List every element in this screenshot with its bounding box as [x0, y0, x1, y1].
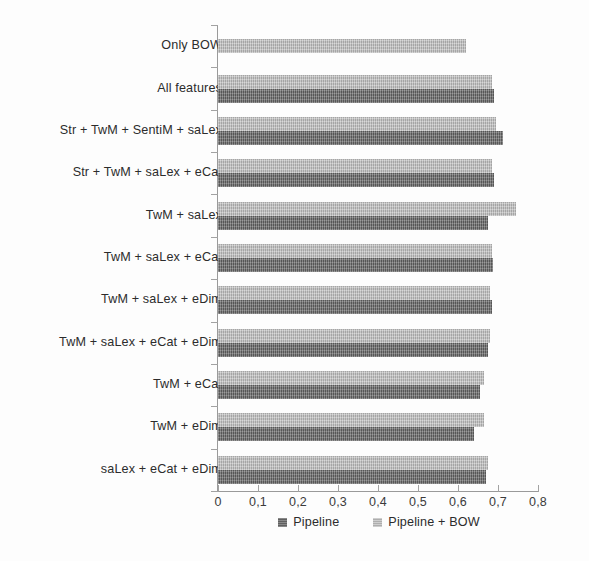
category-label: saLex + eCat + eDim	[101, 462, 222, 476]
bar-pipeline-plus-bow	[218, 39, 466, 53]
bar-pipeline	[218, 343, 488, 357]
bar-row: Only BOW	[0, 25, 589, 67]
bar-pipeline	[218, 385, 480, 399]
value-axis-tick-label: 0,6	[438, 495, 478, 509]
bar-pipeline-plus-bow	[218, 75, 492, 89]
bar-pipeline	[218, 258, 493, 272]
value-axis-tick-label: 0,7	[478, 495, 518, 509]
bar-pipeline-plus-bow	[218, 159, 492, 173]
bar-row: saLex + eCat + eDim	[0, 449, 589, 491]
legend-swatch-icon	[278, 518, 287, 527]
category-label: TwM + saLex	[146, 208, 222, 222]
legend-swatch-icon	[373, 518, 382, 527]
legend-label: Pipeline + BOW	[388, 515, 479, 529]
bar-row: TwM + saLex + eCat + eDim	[0, 322, 589, 364]
legend-entry: Pipeline + BOW	[373, 515, 479, 529]
bar-pipeline-plus-bow	[218, 117, 496, 131]
bar-pipeline	[218, 470, 486, 484]
bar-row: Str + TwM + saLex + eCat	[0, 152, 589, 194]
bar-chart-figure: 00,10,20,30,40,50,60,70,8 Only BOWAll fe…	[0, 0, 589, 561]
chart-legend: PipelinePipeline + BOW	[218, 515, 540, 529]
bar-pipeline-plus-bow	[218, 286, 490, 300]
bar-row: All features	[0, 67, 589, 109]
category-label: Str + TwM + SentiM + saLex	[60, 123, 222, 137]
category-label: TwM + saLex + eDim	[101, 292, 222, 306]
bar-pipeline	[218, 131, 503, 145]
bar-pipeline-plus-bow	[218, 456, 488, 470]
bar-row: TwM + saLex	[0, 194, 589, 236]
value-axis-tick-label: 0,3	[318, 495, 358, 509]
value-axis-tick-label: 0,8	[518, 495, 558, 509]
bar-pipeline-plus-bow	[218, 329, 490, 343]
bar-pipeline	[218, 89, 494, 103]
value-axis-tick-label: 0,4	[358, 495, 398, 509]
value-axis-tick-label: 0,5	[398, 495, 438, 509]
bar-row: TwM + eDim	[0, 406, 589, 448]
bar-row: TwM + saLex + eDim	[0, 279, 589, 321]
bar-pipeline-plus-bow	[218, 202, 516, 216]
bar-row: TwM + saLex + eCat	[0, 237, 589, 279]
bar-pipeline-plus-bow	[218, 413, 484, 427]
category-label: All features	[157, 81, 222, 95]
bar-pipeline	[218, 173, 494, 187]
bar-row: Str + TwM + SentiM + saLex	[0, 110, 589, 152]
category-label: TwM + eCat	[153, 377, 222, 391]
value-axis-tick-label: 0,1	[238, 495, 278, 509]
bar-pipeline	[218, 427, 474, 441]
category-label: Str + TwM + saLex + eCat	[73, 165, 222, 179]
bar-pipeline	[218, 300, 492, 314]
value-axis-tick-label: 0	[198, 495, 238, 509]
bar-pipeline-plus-bow	[218, 371, 484, 385]
category-axis-tick	[211, 491, 218, 492]
bar-pipeline-plus-bow	[218, 244, 492, 258]
category-label: TwM + saLex + eCat	[104, 250, 222, 264]
category-label: Only BOW	[161, 38, 222, 52]
legend-label: Pipeline	[293, 515, 339, 529]
plot-area: 00,10,20,30,40,50,60,70,8 Only BOWAll fe…	[0, 0, 589, 561]
legend-entry: Pipeline	[278, 515, 339, 529]
bar-row: TwM + eCat	[0, 364, 589, 406]
category-label: TwM + saLex + eCat + eDim	[59, 335, 222, 349]
value-axis-tick-label: 0,2	[278, 495, 318, 509]
category-label: TwM + eDim	[150, 419, 222, 433]
bar-pipeline	[218, 216, 488, 230]
